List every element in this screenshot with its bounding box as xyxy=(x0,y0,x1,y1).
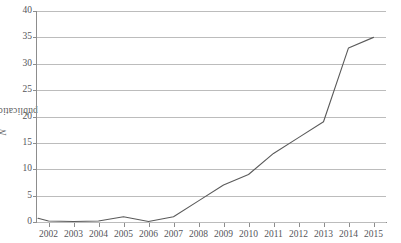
y-tick-mark xyxy=(33,64,37,65)
series-line-publications xyxy=(38,37,374,221)
x-tick-mark xyxy=(149,223,150,227)
x-tick-mark xyxy=(199,223,200,227)
y-tick-mark xyxy=(33,117,37,118)
publications-line-chart: N publications 0510152025303540 20022003… xyxy=(0,0,401,243)
x-tick-mark xyxy=(299,223,300,227)
x-tick-mark xyxy=(74,223,75,227)
x-tick-mark xyxy=(124,223,125,227)
y-tick-mark xyxy=(33,11,37,12)
series-line-svg xyxy=(0,0,401,243)
y-tick-mark xyxy=(33,37,37,38)
x-tick-mark xyxy=(324,223,325,227)
x-tick-mark xyxy=(99,223,100,227)
x-tick-mark xyxy=(224,223,225,227)
x-tick-mark xyxy=(49,223,50,227)
y-tick-mark xyxy=(33,169,37,170)
x-tick-mark xyxy=(249,223,250,227)
x-tick-mark xyxy=(349,223,350,227)
x-tick-mark xyxy=(174,223,175,227)
y-tick-mark xyxy=(33,222,37,223)
y-tick-mark xyxy=(33,196,37,197)
x-tick-mark xyxy=(274,223,275,227)
y-tick-mark xyxy=(33,90,37,91)
x-tick-mark xyxy=(374,223,375,227)
y-tick-mark xyxy=(33,143,37,144)
x-tick-label: 2015 xyxy=(354,229,394,240)
